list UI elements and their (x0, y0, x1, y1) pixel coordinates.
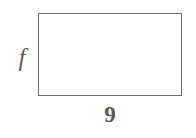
width-label: 9 (90, 100, 130, 130)
rectangle-shape (38, 13, 182, 96)
height-label: f (10, 41, 34, 75)
rectangle-diagram: f 9 (0, 0, 196, 138)
